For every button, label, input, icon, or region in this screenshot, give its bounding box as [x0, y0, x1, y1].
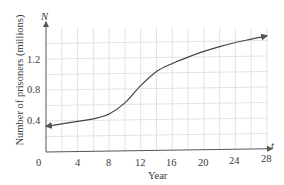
- y-tick-label: 1.2: [27, 54, 40, 65]
- x-tick-label: 16: [166, 157, 177, 168]
- x-tick-label: 28: [261, 153, 272, 164]
- chart: N t 1.2 0.8 0.4 0 4 8 12 16 20 24 28 Yea…: [0, 0, 284, 185]
- x-axis-symbol: t: [271, 140, 274, 151]
- y-axis-title: Number of prisoners (millions): [14, 36, 25, 146]
- x-tick-label: 24: [229, 155, 240, 166]
- x-tick-label: 20: [198, 157, 209, 168]
- x-tick-label: 8: [106, 157, 111, 168]
- y-tick-label: 0.4: [27, 115, 40, 126]
- x-axis: [46, 149, 272, 152]
- x-tick-label: 4: [75, 157, 80, 168]
- x-axis-title: Year: [148, 170, 167, 181]
- x-tick-label: 12: [135, 157, 146, 168]
- y-tick-label: 0.8: [27, 84, 40, 95]
- x-tick-label: 0: [36, 157, 41, 168]
- y-axis-symbol: N: [41, 11, 48, 22]
